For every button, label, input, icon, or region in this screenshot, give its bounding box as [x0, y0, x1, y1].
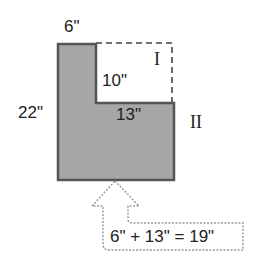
- height-label: 22": [18, 104, 43, 121]
- region-two-label: II: [190, 113, 202, 131]
- inner-width-label: 13": [116, 106, 141, 123]
- diagram-canvas: [0, 0, 258, 263]
- top-width-label: 6": [64, 18, 80, 35]
- inner-height-label: 10": [102, 72, 127, 89]
- region-one-label: I: [154, 50, 160, 68]
- callout-text: 6" + 13" = 19": [110, 228, 214, 245]
